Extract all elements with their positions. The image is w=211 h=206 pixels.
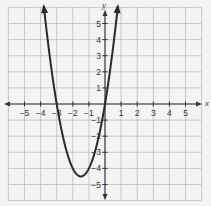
y-tick-label: −4 [91,163,101,173]
curve-arrow-icon [41,4,48,13]
x-tick-label: 1 [119,108,124,118]
y-tick-label: 5 [96,19,101,29]
y-tick-label: 3 [96,51,101,61]
x-tick-label: −2 [68,108,78,118]
parabola-curve [41,4,120,176]
coordinate-plane: x y −5−4−3−2−11234554321−1−2−3−4−5 [0,0,211,206]
x-tick-label: 4 [167,108,172,118]
x-tick-label: −4 [36,108,46,118]
x-tick-label: 5 [183,108,188,118]
x-tick-label: 2 [135,108,140,118]
y-axis-top-arrow-icon [103,10,108,16]
x-tick-label: 3 [151,108,156,118]
y-tick-label: 4 [96,35,101,45]
x-tick-label: −5 [20,108,30,118]
y-tick-label: 1 [96,83,101,93]
x-axis-right-arrow-icon [196,102,202,107]
parabola-path [44,6,118,176]
curve-arrow-icon [114,4,121,13]
y-axis-bottom-arrow-icon [103,194,108,200]
y-tick-label: −1 [91,115,101,125]
x-axis-left-arrow-icon [4,102,10,107]
x-axis-label: x [204,98,209,108]
y-axis-label: y [101,0,106,10]
y-tick-label: 2 [96,67,101,77]
y-tick-label: −5 [91,180,101,190]
